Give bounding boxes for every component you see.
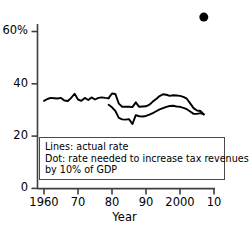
y-axis-label-40: 40 bbox=[0, 78, 28, 90]
scatter-point-group bbox=[199, 13, 208, 22]
tax-rate-line-chart: 60% 40 20 0 1960 70 80 90 2000 10 Year L… bbox=[0, 0, 249, 237]
legend-annotation-box: Lines: actual rate Dot: rate needed to i… bbox=[39, 137, 225, 180]
scatter-point-needed-rate bbox=[199, 13, 208, 22]
legend-line-actual-rate: Lines: actual rate bbox=[45, 141, 220, 153]
y-axis-label-60: 60% bbox=[0, 25, 28, 37]
y-axis-label-0: 0 bbox=[0, 182, 28, 194]
legend-line-dot-meaning-cont: by 10% of GDP bbox=[45, 164, 220, 176]
x-axis-title: Year bbox=[0, 212, 249, 224]
x-axis-label-2010: 10 bbox=[194, 197, 234, 209]
series-line-combined bbox=[44, 94, 109, 101]
series-group bbox=[44, 93, 204, 124]
y-axis-label-20: 20 bbox=[0, 130, 28, 142]
legend-line-dot-meaning: Dot: rate needed to increase tax revenue… bbox=[45, 153, 220, 165]
